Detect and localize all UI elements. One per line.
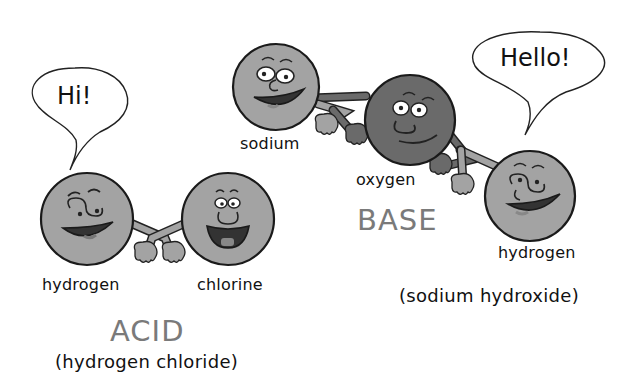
speech-text-hi: Hi! [57, 82, 91, 110]
heading-acid: ACID [110, 314, 184, 348]
heading-base: BASE [357, 203, 437, 237]
atom-sodium [233, 44, 319, 130]
base-bond-arms-left [312, 96, 368, 144]
atom-hydrogen-base [485, 151, 575, 241]
hand-icon [134, 242, 157, 263]
atom-hydrogen-acid [41, 173, 133, 265]
label-sodium: sodium [240, 134, 300, 153]
hand-icon [315, 114, 338, 135]
atom-oxygen [365, 75, 455, 165]
label-oxygen: oxygen [356, 170, 416, 189]
label-chlorine: chlorine [197, 275, 263, 294]
hand-icon [162, 242, 185, 263]
acid-bond-arms [128, 222, 188, 262]
hand-icon [451, 174, 474, 195]
atom-chlorine [182, 173, 274, 265]
compound-hydrogen-chloride: (hydrogen chloride) [55, 351, 238, 372]
speech-text-hello: Hello! [500, 44, 570, 72]
compound-sodium-hydroxide: (sodium hydroxide) [399, 285, 579, 306]
label-hydrogen-acid: hydrogen [42, 275, 120, 294]
label-hydrogen-base: hydrogen [498, 243, 576, 262]
